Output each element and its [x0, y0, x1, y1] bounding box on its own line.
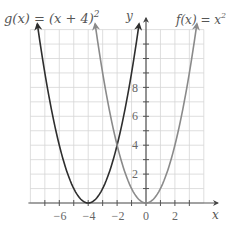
x-tick-label: 0 — [143, 209, 149, 223]
y-axis-label: y — [125, 9, 133, 23]
x-tick-label: −4 — [83, 209, 96, 223]
x-tick-label: 2 — [172, 209, 178, 223]
y-tick-label: 6 — [132, 109, 138, 123]
y-tick-label: 2 — [132, 167, 138, 181]
parabola-chart: g(x) = (x + 4)2 f(x) = x2 y x −6 −4 −2 0… — [0, 0, 231, 232]
grid — [30, 30, 203, 203]
x-axis-label: x — [212, 208, 219, 222]
x-tick-label: −2 — [112, 209, 125, 223]
y-tick-label: 8 — [132, 81, 138, 95]
x-tick-label: −6 — [54, 209, 67, 223]
g-function-label: g(x) = (x + 4)2 — [4, 9, 100, 26]
y-tick-label: 4 — [132, 138, 138, 152]
f-function-label: f(x) = x2 — [175, 11, 226, 27]
